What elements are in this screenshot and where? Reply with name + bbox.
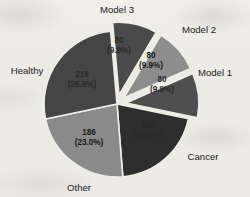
slice-value-healthy: 218 — [75, 70, 89, 79]
slice-value-cancer: 166 — [141, 121, 155, 130]
slice-percent-other: (23.0%) — [75, 138, 104, 147]
category-label-other: Other — [67, 182, 92, 193]
slice-percent-cancer: (20.5%) — [134, 131, 163, 140]
category-label-model-2: Model 2 — [182, 24, 216, 35]
pie-chart-canvas: 80 (9.9%) 80 (9.9%) 80 (9.9%) 166 (20.5%… — [0, 0, 250, 197]
slice-value-model-2: 80 — [146, 51, 156, 60]
category-label-cancer: Cancer — [188, 151, 220, 162]
slice-value-model-3: 80 — [114, 36, 124, 45]
slice-value-model-1: 80 — [157, 75, 167, 84]
slice-percent-model-2: (9.9%) — [139, 61, 163, 70]
category-label-model-3: Model 3 — [100, 4, 134, 15]
pie-chart-figure: 80 (9.9%) 80 (9.9%) 80 (9.9%) 166 (20.5%… — [0, 0, 250, 197]
slice-percent-model-3: (9.9%) — [107, 46, 131, 55]
slice-percent-model-1: (9.9%) — [150, 85, 174, 94]
category-label-healthy: Healthy — [11, 65, 44, 76]
category-label-model-1: Model 1 — [198, 67, 232, 78]
slice-percent-healthy: (26.9%) — [68, 80, 97, 89]
slice-value-other: 186 — [82, 128, 96, 137]
pie-slice-cancer — [117, 104, 188, 177]
